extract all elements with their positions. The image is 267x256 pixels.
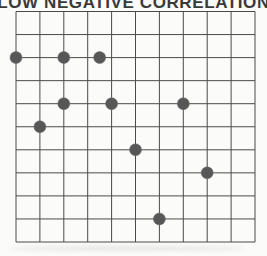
data-point [201,167,213,179]
data-point [106,98,118,110]
scatter-plot [0,0,267,256]
data-point [94,52,106,64]
grid-lines [16,12,255,243]
screenshot-root: LOW NEGATIVE CORRELATION [0,0,267,256]
data-point [177,98,189,110]
data-point [34,121,46,133]
data-point [58,52,70,64]
data-point [58,98,70,110]
scan-shadow-artifact [8,246,246,251]
data-point [153,213,165,225]
data-point [130,144,142,156]
data-point [10,52,22,64]
